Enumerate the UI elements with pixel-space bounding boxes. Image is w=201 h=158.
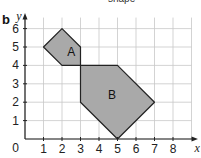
coordinate-grid-diagram: AB 123456781234560xy [0,0,201,158]
x-tick-label: 1 [40,142,47,156]
x-tick-label: 3 [77,142,84,156]
x-axis-label: x [194,141,201,155]
shape-b [81,65,155,139]
x-tick-label: 7 [151,142,158,156]
shape-label-a: A [67,45,75,59]
shape-label-b: B [108,88,116,102]
y-tick-label: 3 [12,77,19,91]
y-tick-label: 2 [12,95,19,109]
x-tick-label: 2 [59,142,66,156]
y-tick-label: 5 [12,40,19,54]
y-tick-label: 6 [12,22,19,36]
y-axis-arrow-icon [23,13,28,19]
origin-label: 0 [12,141,19,155]
y-axis-label: y [15,9,22,23]
x-tick-label: 6 [133,142,140,156]
x-tick-label: 4 [96,142,103,156]
x-tick-label: 8 [170,142,177,156]
x-tick-label: 5 [114,142,121,156]
y-tick-label: 4 [12,58,19,72]
y-tick-label: 1 [12,114,19,128]
